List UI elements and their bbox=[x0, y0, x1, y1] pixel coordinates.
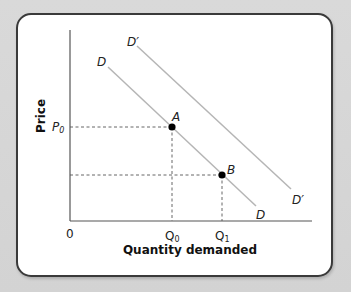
point-b-label: B bbox=[227, 163, 235, 177]
q0-label: Q0 bbox=[165, 229, 180, 244]
point-b bbox=[218, 171, 225, 178]
point-a bbox=[168, 123, 175, 130]
point-a-label: A bbox=[171, 110, 180, 124]
p0-label: P0 bbox=[52, 120, 64, 135]
curve-d-prime-end-label: D′ bbox=[292, 193, 304, 207]
y-axis-title: Price bbox=[34, 99, 48, 133]
origin-label: 0 bbox=[66, 227, 74, 241]
demand-shift-diagram: A B D D D′ D′ P0 Q0 Q1 0 Quantity demand… bbox=[0, 0, 351, 292]
q1-label: Q1 bbox=[215, 229, 230, 244]
diagram-stage: A B D D D′ D′ P0 Q0 Q1 0 Quantity demand… bbox=[0, 0, 351, 292]
x-axis-title: Quantity demanded bbox=[123, 243, 257, 257]
curve-d-prime-start-label: D′ bbox=[127, 35, 139, 49]
curve-d-end-label: D bbox=[256, 208, 265, 222]
curve-d-start-label: D bbox=[97, 55, 106, 69]
